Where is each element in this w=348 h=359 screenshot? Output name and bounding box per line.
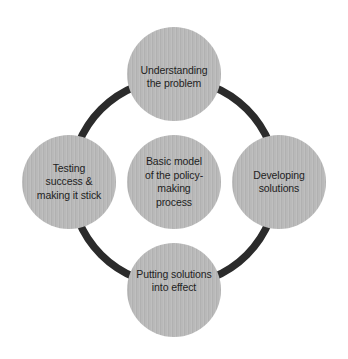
- center-node-label: Basic model of the policy- making proces…: [141, 155, 207, 209]
- stage-label-putting-solutions-into-effect: Putting solutions into effect: [132, 268, 215, 295]
- stage-label-understanding: Understanding the problem: [137, 64, 212, 91]
- stage-label-testing-success: Testing success & making it stick: [33, 162, 105, 203]
- stage-label-developing: Developing solutions: [249, 169, 309, 196]
- stage-node-putting-solutions-into-effect[interactable]: Putting solutions into effect: [127, 243, 221, 337]
- stage-node-testing-success[interactable]: Testing success & making it stick: [22, 135, 116, 229]
- stage-node-developing[interactable]: Developing solutions: [232, 135, 326, 229]
- stage-node-understanding[interactable]: Understanding the problem: [127, 27, 221, 121]
- center-node-basic-model[interactable]: Basic model of the policy- making proces…: [127, 135, 221, 229]
- policy-making-cycle-diagram: Understanding the problem Developing sol…: [0, 0, 348, 359]
